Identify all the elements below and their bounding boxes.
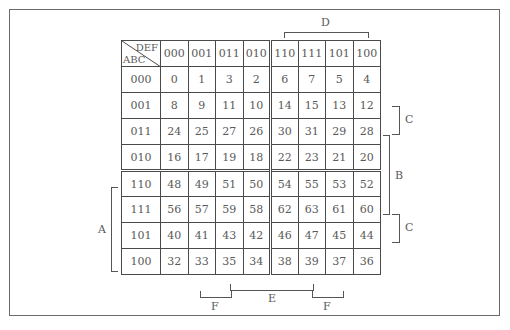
- column-header: 111: [298, 41, 326, 67]
- row-header: 011: [122, 119, 161, 145]
- minterm-cell: 41: [188, 223, 216, 249]
- minterm-cell: 39: [298, 249, 326, 275]
- row-variables-label: ABC: [123, 55, 145, 65]
- label-c-top: C: [405, 114, 413, 125]
- minterm-cell: 8: [161, 93, 189, 119]
- kmap-row: 010 16 17 19 18 22 23 21 20: [122, 145, 381, 171]
- kmap-row: 101 40 41 43 42 46 47 45 44: [122, 223, 381, 249]
- minterm-cell: 12: [353, 93, 381, 119]
- minterm-cell: 61: [326, 197, 354, 223]
- minterm-cell: 40: [161, 223, 189, 249]
- minterm-cell: 37: [326, 249, 354, 275]
- bracket-f-right: [312, 291, 344, 298]
- minterm-cell: 56: [161, 197, 189, 223]
- minterm-cell: 27: [216, 119, 244, 145]
- column-header: 010: [243, 41, 271, 67]
- row-header: 000: [122, 67, 161, 93]
- label-b: B: [395, 170, 403, 181]
- minterm-cell: 20: [353, 145, 381, 171]
- minterm-cell: 17: [188, 145, 216, 171]
- minterm-cell: 43: [216, 223, 244, 249]
- minterm-cell: 30: [271, 119, 299, 145]
- minterm-cell: 46: [271, 223, 299, 249]
- minterm-cell: 28: [353, 119, 381, 145]
- column-header: 011: [216, 41, 244, 67]
- minterm-cell: 47: [298, 223, 326, 249]
- minterm-cell: 63: [298, 197, 326, 223]
- minterm-cell: 26: [243, 119, 271, 145]
- label-e: E: [268, 293, 276, 304]
- row-header: 010: [122, 145, 161, 171]
- minterm-cell: 6: [271, 67, 299, 93]
- minterm-cell: 3: [216, 67, 244, 93]
- kmap-row: 111 56 57 59 58 62 63 61 60: [122, 197, 381, 223]
- minterm-cell: 25: [188, 119, 216, 145]
- bracket-c-top: [392, 106, 400, 135]
- minterm-cell: 51: [216, 171, 244, 197]
- minterm-cell: 59: [216, 197, 244, 223]
- minterm-cell: 29: [326, 119, 354, 145]
- kmap-row: 000 0 1 3 2 6 7 5 4: [122, 67, 381, 93]
- column-header: 001: [188, 41, 216, 67]
- bracket-b: [383, 135, 390, 215]
- bracket-f-left: [200, 291, 232, 298]
- minterm-cell: 23: [298, 145, 326, 171]
- column-variables-label: DEF: [136, 43, 158, 53]
- row-header: 001: [122, 93, 161, 119]
- kmap-row: 001 8 9 11 10 14 15 13 12: [122, 93, 381, 119]
- minterm-cell: 57: [188, 197, 216, 223]
- kmap-row: 011 24 25 27 26 30 31 29 28: [122, 119, 381, 145]
- row-header: 101: [122, 223, 161, 249]
- minterm-cell: 13: [326, 93, 354, 119]
- minterm-cell: 14: [271, 93, 299, 119]
- minterm-cell: 35: [216, 249, 244, 275]
- minterm-cell: 10: [243, 93, 271, 119]
- minterm-cell: 19: [216, 145, 244, 171]
- minterm-cell: 34: [243, 249, 271, 275]
- minterm-cell: 5: [326, 67, 354, 93]
- minterm-cell: 49: [188, 171, 216, 197]
- column-header: 110: [271, 41, 299, 67]
- label-a: A: [98, 224, 106, 235]
- minterm-cell: 16: [161, 145, 189, 171]
- minterm-cell: 0: [161, 67, 189, 93]
- minterm-cell: 4: [353, 67, 381, 93]
- minterm-cell: 54: [271, 171, 299, 197]
- minterm-cell: 45: [326, 223, 354, 249]
- label-d: D: [321, 17, 330, 28]
- bracket-d: [284, 32, 369, 38]
- minterm-cell: 24: [161, 119, 189, 145]
- column-header: 000: [161, 41, 189, 67]
- minterm-cell: 22: [271, 145, 299, 171]
- column-header: 101: [326, 41, 354, 67]
- bracket-e: [230, 284, 314, 291]
- minterm-cell: 7: [298, 67, 326, 93]
- corner-cell: DEF ABC: [122, 41, 161, 67]
- minterm-cell: 36: [353, 249, 381, 275]
- bracket-c-bottom: [392, 214, 400, 243]
- minterm-cell: 15: [298, 93, 326, 119]
- minterm-cell: 2: [243, 67, 271, 93]
- minterm-cell: 60: [353, 197, 381, 223]
- minterm-cell: 21: [326, 145, 354, 171]
- bracket-a: [111, 187, 118, 272]
- row-header: 100: [122, 249, 161, 275]
- label-f-right: F: [323, 301, 331, 312]
- minterm-cell: 18: [243, 145, 271, 171]
- label-f-left: F: [211, 301, 219, 312]
- minterm-cell: 11: [216, 93, 244, 119]
- minterm-cell: 50: [243, 171, 271, 197]
- row-header: 110: [122, 171, 161, 197]
- row-header: 111: [122, 197, 161, 223]
- minterm-cell: 9: [188, 93, 216, 119]
- kmap-row: 100 32 33 35 34 38 39 37 36: [122, 249, 381, 275]
- minterm-cell: 38: [271, 249, 299, 275]
- minterm-cell: 31: [298, 119, 326, 145]
- column-header: 100: [353, 41, 381, 67]
- minterm-cell: 48: [161, 171, 189, 197]
- kmap-row: 110 48 49 51 50 54 55 53 52: [122, 171, 381, 197]
- minterm-cell: 53: [326, 171, 354, 197]
- minterm-cell: 33: [188, 249, 216, 275]
- minterm-cell: 32: [161, 249, 189, 275]
- karnaugh-map: DEF ABC 000 001 011 010 110 111 101 100 …: [121, 40, 381, 275]
